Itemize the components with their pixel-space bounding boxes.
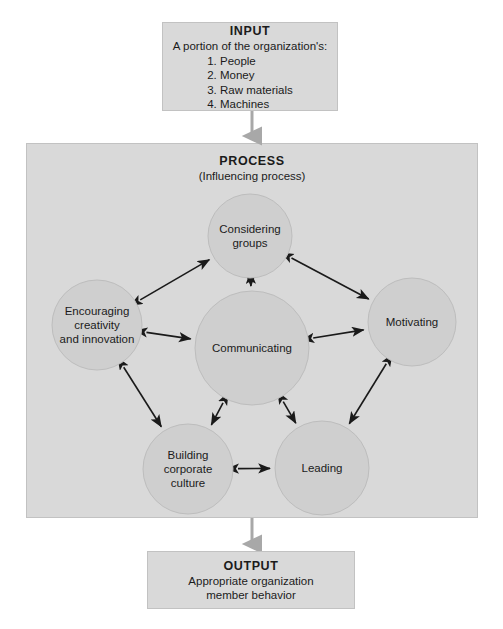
connector-encouraging-creativity-to-considering-groups [140, 260, 209, 300]
node-circle-considering-groups[interactable] [208, 194, 292, 278]
process-nodes [52, 194, 456, 515]
connector-encouraging-creativity-to-building-corporate-culture [124, 367, 162, 426]
input-item: 4. Machines [207, 97, 293, 112]
input-subtitle: A portion of the organization's: [173, 39, 327, 54]
input-title: INPUT [230, 23, 271, 39]
input-item: 2. Money [207, 68, 293, 83]
connector-encouraging-creativity-to-communicating [146, 332, 190, 339]
connector-motivating-to-leading [349, 364, 386, 424]
diagram-canvas: PROCESS (Influencing process) Considerin… [0, 0, 503, 629]
node-circle-building-corporate-culture[interactable] [143, 424, 233, 514]
input-item: 1. People [207, 54, 293, 69]
input-box: INPUT A portion of the organization's: 1… [162, 22, 338, 111]
node-circle-encouraging-creativity[interactable] [52, 280, 142, 370]
output-title: OUTPUT [224, 558, 279, 574]
node-circle-motivating[interactable] [368, 278, 456, 366]
connector-considering-groups-to-motivating [292, 258, 369, 299]
input-item-list: 1. People2. Money3. Raw materials4. Mach… [207, 54, 293, 112]
output-line-1: Appropriate organization [188, 574, 313, 589]
connector-communicating-to-building-corporate-culture [211, 403, 223, 425]
node-circle-communicating[interactable] [195, 291, 309, 405]
input-item: 3. Raw materials [207, 83, 293, 98]
node-circle-leading[interactable] [275, 421, 369, 515]
connector-communicating-to-leading [283, 402, 296, 424]
connector-communicating-to-motivating [313, 330, 363, 338]
output-line-2: member behavior [206, 588, 295, 603]
output-box: OUTPUT Appropriate organization member b… [147, 551, 355, 609]
